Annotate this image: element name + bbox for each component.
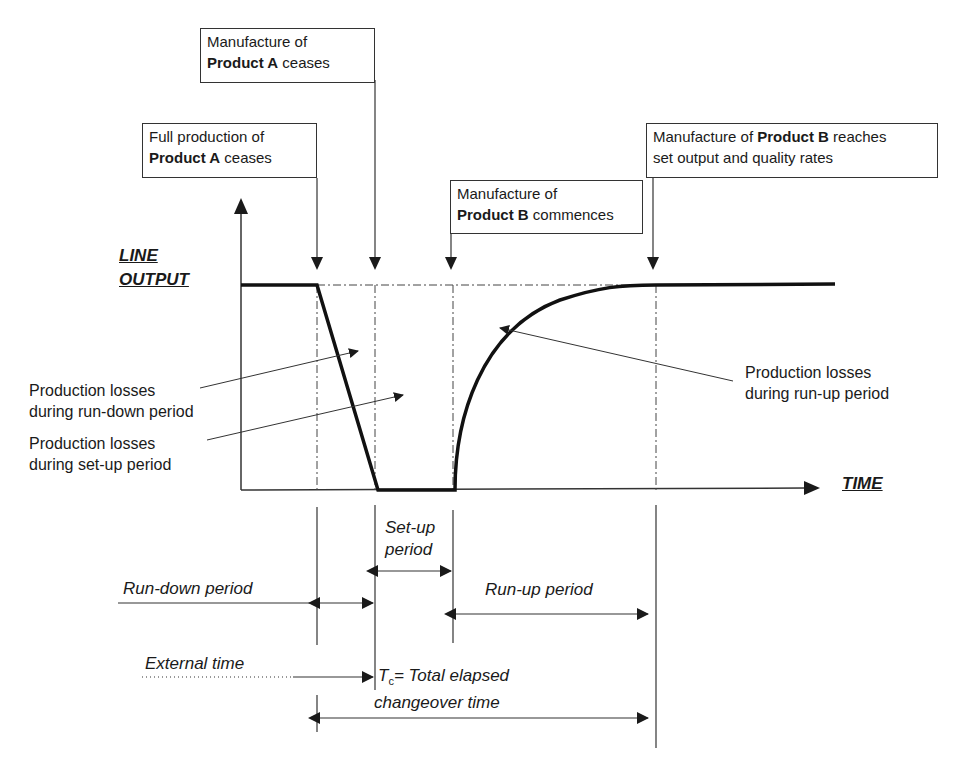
setup-period-line2: period bbox=[385, 539, 435, 561]
total-symbol: T bbox=[378, 666, 388, 685]
loss-label-line: during set-up period bbox=[29, 454, 171, 475]
product-name: Product A bbox=[149, 149, 220, 166]
total-text: = Total elapsed bbox=[394, 666, 509, 685]
y-axis-title-line1: LINE bbox=[119, 244, 189, 268]
loss-pointer-arrows bbox=[200, 328, 733, 440]
event-box-text: Product A ceases bbox=[207, 52, 368, 73]
loss-label-run-down: Production losses during run-down period bbox=[29, 380, 194, 422]
runup-period-label: Run-up period bbox=[485, 579, 593, 601]
setup-period-label: Set-up period bbox=[385, 517, 435, 561]
event-box-text: set output and quality rates bbox=[653, 147, 931, 168]
event-box-text: commences bbox=[529, 206, 614, 223]
loss-label-set-up: Production losses during set-up period bbox=[29, 433, 171, 475]
event-box-text: Full production of bbox=[149, 126, 310, 147]
loss-label-line: Production losses bbox=[745, 362, 889, 383]
loss-label-line: during run-up period bbox=[745, 383, 889, 404]
loss-label-line: during run-down period bbox=[29, 401, 194, 422]
external-time-label: External time bbox=[145, 653, 244, 675]
product-name: Product A bbox=[207, 54, 278, 71]
event-box-text: Manufacture of bbox=[207, 31, 368, 52]
event-box-text: ceases bbox=[278, 54, 330, 71]
event-box-text: reaches bbox=[829, 128, 887, 145]
y-axis-title-line2: OUTPUT bbox=[119, 268, 189, 292]
event-box-text: Product A ceases bbox=[149, 147, 310, 168]
loss-label-run-up: Production losses during run-up period bbox=[745, 362, 889, 404]
event-box-manufacture-b-commences: Manufacture of Product B commences bbox=[450, 180, 643, 234]
rundown-period-label: Run-down period bbox=[123, 578, 252, 600]
x-axis bbox=[241, 481, 820, 495]
total-changeover-line2: changeover time bbox=[374, 692, 509, 714]
event-box-text: Manufacture of Product B reaches bbox=[653, 126, 931, 147]
event-box-text: Manufacture of bbox=[457, 183, 636, 204]
event-box-text: ceases bbox=[220, 149, 272, 166]
y-axis bbox=[234, 198, 248, 490]
setup-period-line1: Set-up bbox=[385, 517, 435, 539]
product-name: Product B bbox=[457, 206, 529, 223]
event-box-text: Manufacture of bbox=[653, 128, 757, 145]
y-axis-title: LINE OUTPUT bbox=[119, 244, 189, 292]
event-box-full-production-a-ceases: Full production of Product A ceases bbox=[142, 123, 317, 178]
event-arrows bbox=[311, 80, 659, 270]
event-box-product-b-reaches-rates: Manufacture of Product B reaches set out… bbox=[646, 123, 938, 178]
total-changeover-label: Tc= Total elapsed changeover time bbox=[374, 665, 509, 714]
loss-label-line: Production losses bbox=[29, 380, 194, 401]
x-axis-title: TIME bbox=[842, 472, 883, 496]
total-changeover-line1: Tc= Total elapsed bbox=[374, 665, 509, 692]
product-name: Product B bbox=[757, 128, 829, 145]
event-box-manufacture-a-ceases: Manufacture of Product A ceases bbox=[200, 28, 375, 83]
event-box-text: Product B commences bbox=[457, 204, 636, 225]
loss-label-line: Production losses bbox=[29, 433, 171, 454]
